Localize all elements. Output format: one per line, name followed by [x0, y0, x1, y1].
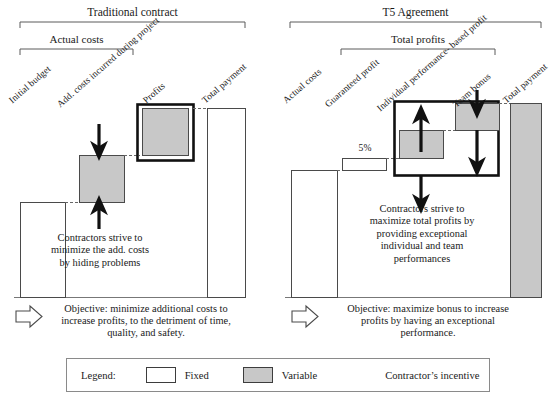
right-panel-bars: [285, 102, 542, 298]
legend-label-incentive: Contractor’s incentive: [385, 370, 479, 381]
objective-arrow-left: [16, 306, 42, 327]
legend-swatch-fixed: [146, 367, 176, 383]
right-panel-objective: Objective: maximize bonus to increase pr…: [322, 303, 534, 340]
left-panel-note: Contractors strive to minimize the add. …: [24, 232, 176, 269]
bar-profits: [143, 109, 189, 156]
bar-additional-costs: [80, 156, 125, 203]
legend-label-fixed: Fixed: [185, 370, 209, 381]
left-panel-objective: Objective: minimize additional costs to …: [46, 303, 246, 340]
bar-total-payment-right: [511, 104, 542, 298]
legend: Legend: Fixed Variable Contractor’s ince…: [66, 358, 490, 392]
bar-total-payment-left: [208, 109, 246, 298]
right-panel-note: Contractors strive to maximize total pro…: [340, 203, 504, 265]
bar-guaranteed-profit: [343, 159, 387, 171]
left-panel-title: Traditional contract: [20, 6, 245, 18]
data-label-guaranteed-profit: 5%: [350, 142, 380, 153]
figure-graphics: [0, 0, 556, 402]
bar-actual-costs: [292, 171, 338, 298]
incentive-comparison-figure: Traditional contract Actual costs Initia…: [0, 0, 556, 402]
right-panel-title: T5 Agreement: [290, 6, 541, 18]
left-bracket-label-actual-costs: Actual costs: [20, 33, 133, 45]
legend-label-variable: Variable: [282, 370, 317, 381]
legend-swatch-variable: [243, 367, 273, 383]
legend-swatch-arrow: [351, 369, 381, 381]
legend-title: Legend:: [81, 370, 116, 381]
objective-arrow-right: [292, 306, 318, 327]
